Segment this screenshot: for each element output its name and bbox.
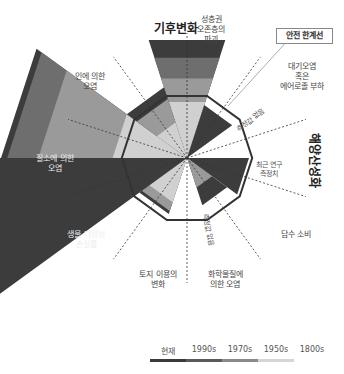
label-aerosol-1: 대기오염 — [288, 62, 316, 71]
legend-label-1950s: 1950s — [258, 345, 294, 356]
label-land-use-2: 변화 — [151, 279, 166, 289]
legend-label-present: 현재 — [150, 345, 186, 356]
label-chemical-2: 의한 오염 — [210, 279, 241, 289]
legend-labels: 현재 1990s 1970s 1950s 1800s — [150, 345, 330, 356]
legend-swatch-present — [150, 359, 186, 362]
recent-study-label-1: 최근 연구 — [256, 160, 283, 169]
legend-swatch-1950s — [258, 359, 294, 362]
legend-label-1800s: 1800s — [294, 345, 330, 356]
legend-swatch-1970s — [222, 359, 258, 362]
label-chemical-1: 화학물질에 — [208, 269, 243, 279]
recent-study-label-2: 측정치 — [260, 169, 278, 178]
legend-color-bar — [150, 359, 294, 362]
label-biodiversity-1: 생물 다양성 — [67, 229, 105, 239]
legend: 현재 1990s 1970s 1950s 1800s — [150, 345, 330, 362]
boundary-callout-line — [228, 38, 290, 106]
label-ozone-1: 성층권 — [201, 14, 222, 24]
wedges-layer — [0, 40, 249, 300]
legend-label-1970s: 1970s — [222, 345, 258, 356]
label-aerosol-3: 에어로졸 부하 — [280, 81, 326, 91]
label-nitrogen-2: 오염 — [48, 164, 62, 173]
legend-swatch-1990s — [186, 359, 222, 362]
label-land-use-1: 토지 이용의 — [139, 269, 177, 279]
label-nitrogen-1: 질소에 의한 — [36, 153, 75, 163]
safe-boundary-label: 안전 한계선 — [276, 28, 333, 44]
label-aerosol-2: 혹은 — [295, 71, 309, 81]
no-measurement-label-chemical: 측정값 없음 — [201, 213, 216, 247]
label-biodiversity-2: 손실률 — [76, 239, 97, 249]
label-ozone-2: 오존층의 — [197, 24, 225, 34]
label-climate-change: 기후변화 — [154, 21, 198, 36]
label-phosphorus-1: 인에 의한 — [75, 71, 107, 81]
legend-label-1990s: 1990s — [186, 345, 222, 356]
label-ozone-3: 파괴 — [204, 35, 218, 44]
label-ocean-acidification: 해양산성화 — [307, 133, 322, 188]
planetary-boundaries-chart: 기후변화 성층권 오존층의 파괴 대기오염 혹은 에어로졸 부하 해양산성화 담… — [0, 0, 344, 374]
label-freshwater: 담수 소비 — [281, 229, 312, 239]
label-phosphorus-2: 오염 — [83, 82, 97, 91]
